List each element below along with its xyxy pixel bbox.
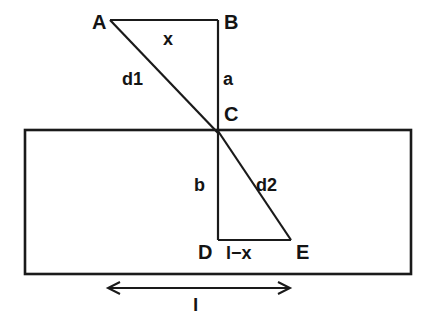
dimension-label-l: l [193, 295, 198, 314]
segment-label-a: a [223, 70, 233, 88]
segment-label-x: x [163, 30, 173, 48]
vertex-label-a: A [92, 12, 106, 32]
segment-label-l-minus-x: l−x [226, 244, 252, 262]
segment-label-d1: d1 [122, 70, 143, 88]
diagram-canvas [0, 0, 433, 326]
geometry-diagram: A B C D E x a d1 b d2 l−x l [0, 0, 433, 326]
vertex-label-e: E [296, 242, 309, 262]
vertex-label-b: B [224, 12, 238, 32]
vertex-label-d: D [198, 242, 212, 262]
segment-label-b: b [194, 176, 205, 194]
segment-label-d2: d2 [256, 176, 277, 194]
vertex-label-c: C [224, 104, 238, 124]
segment-ce-d2 [218, 131, 291, 240]
